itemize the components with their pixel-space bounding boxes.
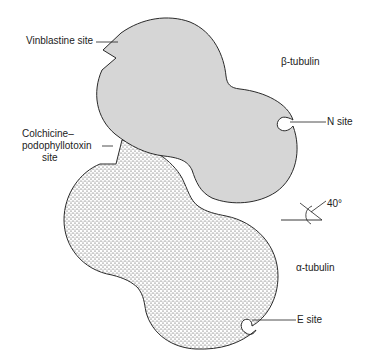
angle-indicator xyxy=(281,201,326,224)
beta-tubulin-label: β-tubulin xyxy=(281,56,320,68)
colchicine-site-label-line3: site xyxy=(42,152,58,164)
colchicine-site-label-line2: podophyllotoxin xyxy=(22,140,92,152)
vinblastine-site-label: Vinblastine site xyxy=(26,35,93,47)
colchicine-site-label-line1: Colchicine– xyxy=(22,128,74,140)
diagram-canvas xyxy=(0,0,371,359)
tubulin-dimer-diagram: Vinblastine site β-tubulin N site Colchi… xyxy=(0,0,371,359)
alpha-tubulin-label: α-tubulin xyxy=(296,262,335,274)
angle-label: 40° xyxy=(327,198,342,210)
e-site-label: E site xyxy=(297,314,322,326)
n-site-label: N site xyxy=(327,116,353,128)
